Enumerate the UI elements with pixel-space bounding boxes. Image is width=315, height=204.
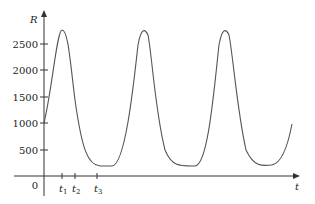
- x-axis-label: t: [295, 181, 300, 192]
- y-axis-arrow-icon: [41, 10, 47, 17]
- x-axis-arrow-icon: [293, 173, 300, 179]
- y-tick-label: 1500: [13, 92, 38, 103]
- data-curve: [44, 30, 292, 166]
- origin-label: 0: [32, 180, 38, 191]
- y-tick-label: 500: [19, 145, 38, 156]
- chart: 2500 2000 1500 1000 500 0 R t t1 t2 t3: [0, 0, 315, 204]
- y-axis-label: R: [29, 14, 38, 25]
- y-tick-label: 1000: [13, 118, 38, 129]
- x-tick-label-t1: t1: [59, 183, 68, 196]
- x-tick-label-t3: t3: [94, 183, 103, 196]
- y-tick-label: 2000: [13, 65, 38, 76]
- x-tick-label-t2: t2: [72, 183, 81, 196]
- y-tick-label: 2500: [13, 39, 38, 50]
